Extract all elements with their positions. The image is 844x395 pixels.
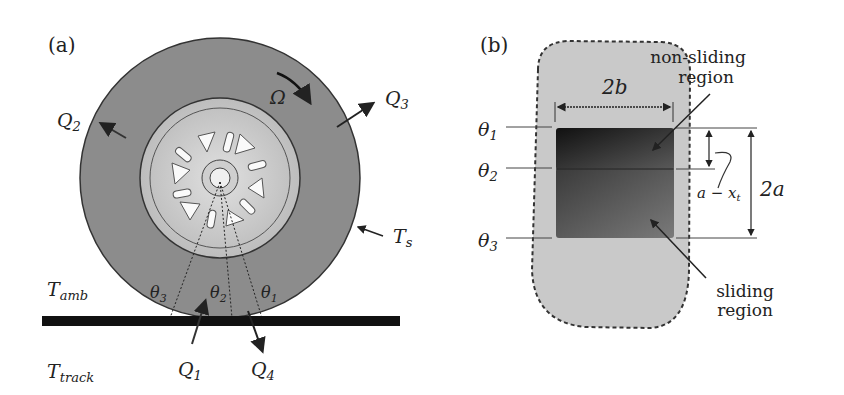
- ttrack-label: Ttrack: [47, 360, 94, 385]
- width-label: 2b: [601, 75, 628, 99]
- omega-label: Ω: [269, 86, 286, 108]
- track: [42, 316, 400, 326]
- tamb-label: Tamb: [47, 278, 88, 303]
- panel-b: (b) 2b θ1 θ2 θ3 a − xt 2a: [478, 33, 785, 328]
- sliding-label-line2: region: [717, 300, 773, 320]
- q2-label: Q2: [57, 109, 81, 134]
- non-sliding-region: [556, 128, 674, 170]
- sliding-region: [556, 168, 674, 238]
- q4-label: Q4: [251, 358, 275, 383]
- theta1-label-b: θ1: [478, 118, 498, 143]
- q1-label: Q1: [178, 358, 202, 383]
- non-sliding-label-line1: non-sliding: [650, 47, 746, 67]
- panel-a-label: (a): [48, 33, 76, 57]
- ts-arrow-icon: [358, 227, 383, 236]
- theta2-label-b: θ2: [478, 159, 498, 184]
- q3-label: Q3: [385, 87, 409, 112]
- panel-a: (a) Ω Q2 Q3 Q1 Q4 Ts Tamb Ttrack θ3 θ2 θ…: [42, 33, 413, 385]
- figure: (a) Ω Q2 Q3 Q1 Q4 Ts Tamb Ttrack θ3 θ2 θ…: [0, 0, 844, 395]
- panel-b-label: (b): [480, 33, 508, 57]
- wheel-rim: [140, 98, 300, 258]
- non-sliding-label-line2: region: [678, 67, 734, 87]
- height-label: 2a: [759, 177, 785, 201]
- ts-label: Ts: [393, 225, 413, 250]
- offset-label: a − xt: [697, 184, 742, 203]
- sliding-label-line1: sliding: [716, 281, 774, 301]
- theta3-label-b: θ3: [478, 229, 498, 254]
